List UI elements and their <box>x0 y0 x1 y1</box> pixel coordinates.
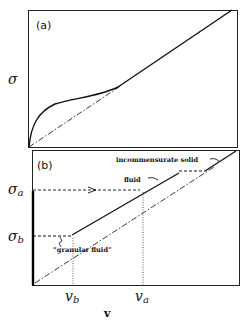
figure: (a) σ (b) incommensurate solid <box>0 0 244 320</box>
fluid-pointer <box>148 178 158 180</box>
x-axis-label: v <box>103 307 111 320</box>
panel-a: (a) σ <box>8 10 238 148</box>
panel-b-solid-branch <box>205 151 236 171</box>
va-tick: va <box>135 288 149 305</box>
panel-a-label: (a) <box>36 19 51 32</box>
panel-b-linear-reference <box>35 167 214 283</box>
panel-b: (b) incommensurate solid fluid “granular… <box>8 151 240 320</box>
granular-fluid-label: “granular fluid” <box>53 246 112 254</box>
vb-tick: vb <box>65 288 79 305</box>
sigma-b-tick: σb <box>8 228 24 245</box>
panel-a-linear-reference <box>29 85 122 147</box>
panel-b-label: (b) <box>37 159 53 172</box>
incommensurate-solid-pointer <box>210 159 219 161</box>
sigma-a-tick: σa <box>8 181 24 198</box>
panel-a-y-axis-label: σ <box>8 71 18 87</box>
incommensurate-solid-label: incommensurate solid <box>116 156 199 164</box>
fluid-label: fluid <box>124 176 141 184</box>
